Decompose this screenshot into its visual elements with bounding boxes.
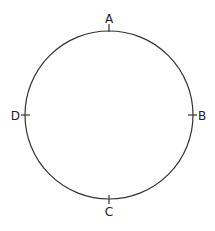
point-label-c: C xyxy=(105,205,113,219)
circle-diagram: A B C D xyxy=(0,0,215,231)
point-label-a: A xyxy=(105,12,114,26)
point-label-b: B xyxy=(198,109,206,123)
point-label-d: D xyxy=(11,109,20,123)
circle xyxy=(25,31,193,199)
